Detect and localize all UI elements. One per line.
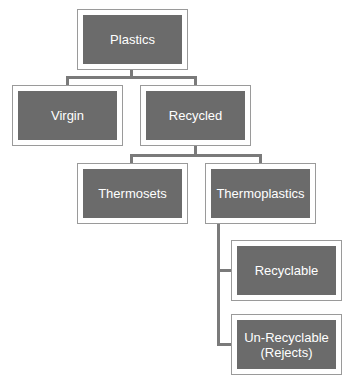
node-recycled-label: Recycled (146, 91, 245, 140)
node-thermoplastics: Thermoplastics (205, 163, 316, 224)
node-recycled: Recycled (140, 85, 251, 146)
node-thermosets-label: Thermosets (83, 169, 182, 218)
node-unrecyclable: Un-Recyclable (Rejects) (231, 314, 342, 375)
connector-to-thermosets (130, 154, 133, 163)
node-thermoplastics-label: Thermoplastics (211, 169, 310, 218)
connector-to-recycled (194, 76, 197, 85)
node-recyclable-label: Recyclable (237, 246, 336, 295)
connector-thermoplastics-trunk (217, 223, 220, 346)
node-virgin-label: Virgin (18, 91, 117, 140)
connector-plastics-bar (66, 76, 197, 79)
connector-to-virgin (66, 76, 69, 85)
node-thermosets: Thermosets (77, 163, 188, 224)
connector-recycled-bar (130, 154, 262, 157)
node-plastics-label: Plastics (83, 15, 182, 64)
connector-to-thermoplastics (259, 154, 262, 163)
node-unrecyclable-label: Un-Recyclable (Rejects) (237, 320, 336, 369)
node-virgin: Virgin (12, 85, 123, 146)
node-plastics: Plastics (77, 9, 188, 70)
connector-to-recyclable (217, 269, 231, 272)
node-recyclable: Recyclable (231, 240, 342, 301)
connector-to-unrecyclable (217, 343, 231, 346)
